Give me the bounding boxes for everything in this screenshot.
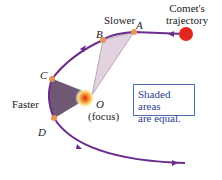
sun-icon xyxy=(75,88,95,108)
arrow-icon xyxy=(172,160,178,166)
point-c xyxy=(49,76,55,82)
faster-label: Faster xyxy=(12,98,39,110)
arrow-icon xyxy=(76,144,82,149)
focus-label: (focus) xyxy=(88,110,119,122)
point-o-label: O xyxy=(96,98,104,110)
arrow-icon xyxy=(168,31,174,37)
point-b-label: B xyxy=(96,28,103,40)
point-a-label: A xyxy=(136,19,143,31)
equal-areas-note: Shaded areas are equal. xyxy=(133,84,195,116)
point-d xyxy=(51,115,57,121)
point-d-label: D xyxy=(38,126,46,138)
comet-trajectory-label: Comet's trajectory xyxy=(166,2,208,26)
comet-icon xyxy=(179,27,193,41)
point-c-label: C xyxy=(40,69,47,81)
slower-label: Slower xyxy=(104,14,135,26)
